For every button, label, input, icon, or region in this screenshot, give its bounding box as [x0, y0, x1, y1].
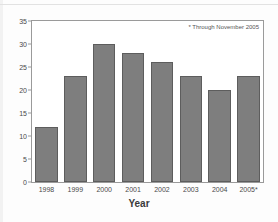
x-axis-tick-label: 2001: [119, 186, 148, 193]
y-axis-tick-mark: [28, 136, 31, 137]
y-axis-tick-label: 15: [19, 110, 27, 117]
bar-2000[interactable]: [93, 44, 116, 182]
y-axis-tick-mark: [28, 90, 31, 91]
bar-1999[interactable]: [64, 76, 87, 182]
y-axis-tick-mark: [28, 21, 31, 22]
y-axis-tick-label: 0: [23, 179, 27, 186]
y-axis-tick-mark: [28, 67, 31, 68]
bar-2004[interactable]: [208, 90, 231, 182]
bar-slot: [35, 21, 58, 182]
bar-chart-figure: * Through November 2005 05101520253035 1…: [0, 0, 278, 222]
y-axis-tick-label: 10: [19, 133, 27, 140]
bar-1998[interactable]: [35, 127, 58, 182]
bar-slot: [237, 21, 260, 182]
y-axis-tick-label: 30: [19, 41, 27, 48]
x-axis-tick-label: 2003: [176, 186, 205, 193]
y-axis-tick-label: 20: [19, 87, 27, 94]
bar-slot: [180, 21, 203, 182]
y-axis: 05101520253035: [0, 20, 31, 183]
y-axis-tick-mark: [28, 44, 31, 45]
x-axis-title: Year: [0, 198, 278, 209]
y-axis-tick-mark: [28, 113, 31, 114]
x-axis-labels: 19981999200020012002200320042005*: [32, 186, 263, 198]
bar-2003[interactable]: [180, 76, 203, 182]
bars-layer: [32, 21, 263, 182]
y-axis-tick-mark: [28, 182, 31, 183]
bar-2005[interactable]: [237, 76, 260, 182]
bar-slot: [122, 21, 145, 182]
x-axis-tick-label: 2002: [148, 186, 177, 193]
x-axis-tick-label: 2005*: [234, 186, 263, 193]
bar-slot: [64, 21, 87, 182]
x-axis-tick-label: 2000: [90, 186, 119, 193]
y-axis-tick-label: 25: [19, 64, 27, 71]
x-axis-tick-label: 2004: [205, 186, 234, 193]
y-axis-tick-label: 35: [19, 18, 27, 25]
y-axis-tick-mark: [28, 159, 31, 160]
y-axis-tick-label: 5: [23, 156, 27, 163]
bar-slot: [208, 21, 231, 182]
bar-2002[interactable]: [151, 62, 174, 182]
bar-slot: [93, 21, 116, 182]
bar-slot: [151, 21, 174, 182]
bar-2001[interactable]: [122, 53, 145, 182]
x-axis-tick-label: 1999: [61, 186, 90, 193]
x-axis-tick-label: 1998: [32, 186, 61, 193]
